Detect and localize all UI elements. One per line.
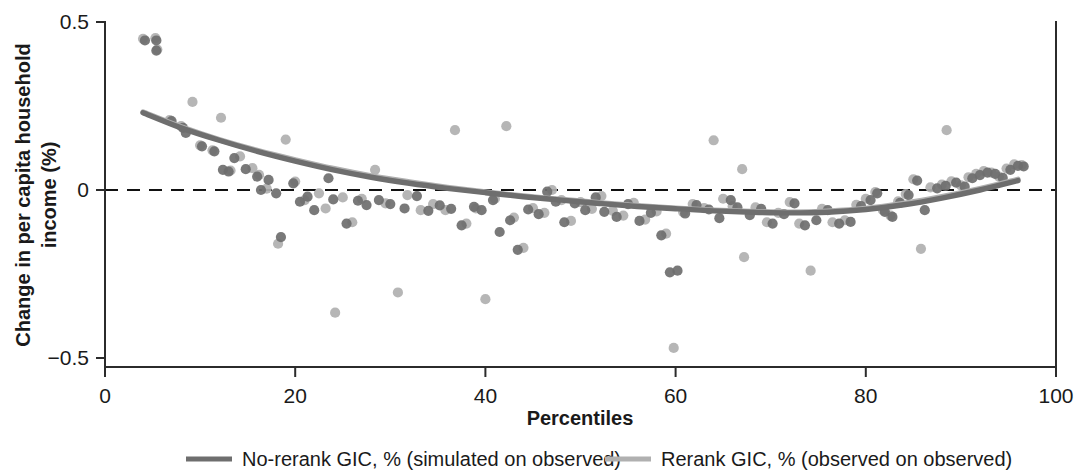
- scatter-point: [209, 146, 219, 156]
- scatter-point: [197, 141, 207, 151]
- scatter-point: [446, 204, 456, 214]
- scatter-point: [271, 188, 281, 198]
- scatter-point: [480, 294, 490, 304]
- legend: No-rerank GIC, % (simulated on observed)…: [186, 448, 1012, 470]
- scatter-plot-svg: −0.500.5020406080100 Percentiles Change …: [0, 0, 1080, 474]
- scatter-point: [559, 217, 569, 227]
- scatter-point: [361, 200, 371, 210]
- y-tick-label-2: 0.5: [60, 10, 89, 33]
- y-tick-label-1: 0: [77, 178, 89, 201]
- legend-label-no-rerank: No-rerank GIC, % (simulated on observed): [242, 448, 621, 470]
- tick-labels-layer: −0.500.5020406080100: [48, 10, 1074, 407]
- x-tick-label-5: 100: [1038, 384, 1073, 407]
- y-axis-title-line1: Change in per capita household: [12, 43, 34, 346]
- scatter-point: [739, 252, 749, 262]
- scatter-point: [302, 192, 312, 202]
- scatter-point: [523, 204, 533, 214]
- scatter-point: [811, 215, 821, 225]
- scatter-point: [806, 266, 816, 276]
- scatter-point: [887, 212, 897, 222]
- y-axis-title-group: Change in per capita household income (%…: [12, 43, 60, 346]
- scatter-point: [916, 244, 926, 254]
- x-tick-label-2: 40: [474, 384, 497, 407]
- scatter-point: [399, 203, 409, 213]
- scatter-point: [845, 217, 855, 227]
- scatter-point: [341, 219, 351, 229]
- scatter-point: [904, 190, 914, 200]
- scatter-point: [309, 205, 319, 215]
- scatter-point: [216, 113, 226, 123]
- scatter-point: [263, 175, 273, 185]
- scatter-point: [612, 212, 622, 222]
- scatter-point: [323, 173, 333, 183]
- scatter-point: [669, 343, 679, 353]
- scatter-point: [385, 199, 395, 209]
- scatter-point: [423, 206, 433, 216]
- scatter-point: [477, 205, 487, 215]
- scatter-point: [435, 200, 445, 210]
- scatter-point: [393, 287, 403, 297]
- scatter-point: [338, 192, 348, 202]
- scatter-point: [599, 207, 609, 217]
- x-tick-label-4: 80: [854, 384, 877, 407]
- scatter-point: [580, 205, 590, 215]
- scatter-point: [789, 198, 799, 208]
- scatter-point: [281, 135, 291, 145]
- scatter-point: [224, 166, 234, 176]
- scatter-point: [151, 45, 161, 55]
- y-axis-title-line2: income (%): [38, 142, 60, 249]
- scatter-point: [229, 153, 239, 163]
- scatter-point: [505, 215, 515, 225]
- scatter-point: [941, 181, 951, 191]
- scatter-point: [534, 209, 544, 219]
- scatter-point: [656, 230, 666, 240]
- scatter-point: [256, 185, 266, 195]
- scatter-point: [412, 191, 422, 201]
- scatter-point: [241, 164, 251, 174]
- x-tick-label-1: 20: [284, 384, 307, 407]
- scatter-point: [872, 188, 882, 198]
- scatter-point: [151, 35, 161, 45]
- scatter-point: [402, 190, 412, 200]
- scatter-point: [501, 121, 511, 131]
- scatter-point: [450, 125, 460, 135]
- x-tick-label-3: 60: [664, 384, 687, 407]
- scatter-point: [314, 188, 324, 198]
- x-axis-title: Percentiles: [527, 407, 634, 429]
- chart-figure: −0.500.5020406080100 Percentiles Change …: [0, 0, 1080, 474]
- scatter-point: [672, 266, 682, 276]
- scatter-point: [457, 220, 467, 230]
- scatter-point: [495, 227, 505, 237]
- scatter-point: [800, 220, 810, 230]
- scatter-point: [932, 183, 942, 193]
- scatter-point: [328, 194, 338, 204]
- scatter-point: [709, 135, 719, 145]
- scatter-point: [912, 175, 922, 185]
- scatter-point: [768, 219, 778, 229]
- scatter-point: [288, 178, 298, 188]
- scatter-point: [330, 308, 340, 318]
- scatter-point: [140, 35, 150, 45]
- scatter-point: [321, 203, 331, 213]
- scatter-point: [513, 245, 523, 255]
- scatter-point: [834, 219, 844, 229]
- scatter-point: [737, 164, 747, 174]
- scatter-point: [187, 97, 197, 107]
- scatter-point: [374, 195, 384, 205]
- scatter-point: [252, 171, 262, 181]
- scatter-point: [634, 216, 644, 226]
- scatter-point: [942, 125, 952, 135]
- x-tick-label-0: 0: [99, 384, 111, 407]
- scatter-point: [276, 232, 286, 242]
- scatter-point: [714, 213, 724, 223]
- scatter-point: [1019, 161, 1029, 171]
- scatter-point: [920, 205, 930, 215]
- y-tick-label-0: −0.5: [48, 346, 89, 369]
- legend-label-rerank: Rerank GIC, % (observed on observed): [661, 448, 1012, 470]
